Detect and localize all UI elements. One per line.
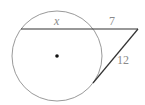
label-external-segment: 7 (109, 14, 115, 28)
label-internal-segment: x (53, 14, 60, 28)
geometry-diagram: x 7 12 (0, 0, 145, 105)
tangent-line (93, 29, 138, 83)
center-point (55, 54, 59, 58)
label-tangent-segment: 12 (117, 53, 129, 67)
